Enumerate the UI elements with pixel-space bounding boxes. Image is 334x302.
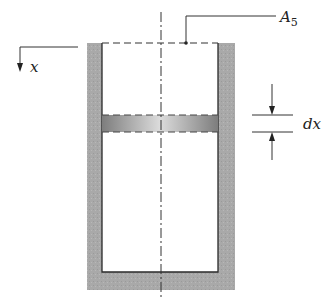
area-label: A5 [278, 8, 298, 29]
x-axis-arrow-icon [17, 47, 78, 72]
dx-dimension [252, 84, 293, 160]
container-inner-outline [102, 43, 218, 272]
differential-slice [102, 115, 218, 132]
diagram-canvas: A5 x dx [0, 0, 334, 302]
dx-label: dx [303, 115, 322, 133]
x-axis-label: x [30, 58, 39, 76]
area-leader [184, 16, 276, 45]
